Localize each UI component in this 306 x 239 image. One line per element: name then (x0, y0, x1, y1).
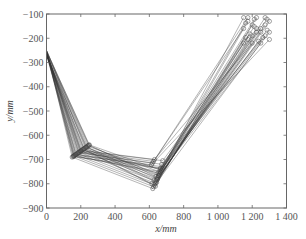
trajectory-chart: 02004006008001 0001 2001 400 −100−200−30… (0, 0, 306, 239)
y-tick-label: −600 (23, 130, 44, 141)
plot-frame (47, 14, 287, 208)
x-tick-label: 200 (73, 211, 88, 222)
x-tick-label: 1 400 (275, 211, 298, 222)
trajectory-line (47, 29, 261, 182)
y-tick-label: −100 (23, 9, 44, 20)
x-axis-label: x/mm (154, 223, 177, 234)
y-tick-label: −200 (23, 33, 44, 44)
x-tick-label: 0 (44, 211, 49, 222)
trajectory-line (47, 34, 251, 184)
y-tick-label: −700 (23, 154, 44, 165)
x-tick-label: 1 200 (241, 211, 264, 222)
x-axis-ticks: 02004006008001 0001 2001 400 (44, 14, 298, 222)
x-tick-label: 600 (142, 211, 157, 222)
y-axis-label: y/mm (4, 100, 15, 123)
y-tick-label: −800 (23, 178, 44, 189)
x-tick-label: 400 (108, 211, 123, 222)
x-tick-label: 800 (176, 211, 191, 222)
trajectory-line (47, 27, 255, 168)
trajectory-lines (47, 18, 270, 189)
y-tick-label: −400 (23, 81, 44, 92)
x-tick-label: 1 000 (207, 211, 230, 222)
trajectory-line (47, 30, 268, 169)
trajectory-line (47, 43, 253, 159)
y-tick-label: −900 (23, 203, 44, 214)
y-tick-label: −300 (23, 57, 44, 68)
y-tick-label: −500 (23, 106, 44, 117)
